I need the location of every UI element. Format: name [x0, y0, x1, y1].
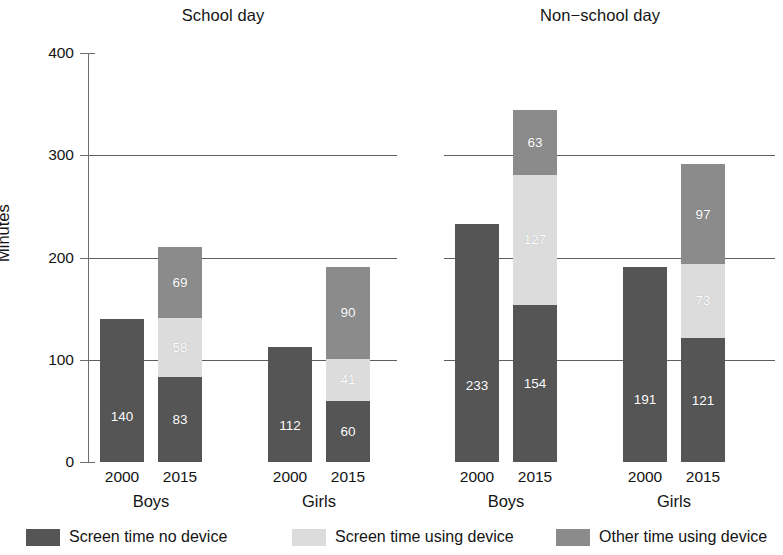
stacked-bar: 835869 — [158, 247, 202, 462]
bar-segment-value-label: 69 — [172, 275, 187, 290]
bar-segment: 191 — [623, 267, 667, 462]
x-tick-label: 2015 — [518, 468, 552, 486]
x-tick-label: 2015 — [163, 468, 197, 486]
bar-segment-value-label: 121 — [692, 393, 715, 408]
bar-segment-value-label: 154 — [524, 376, 547, 391]
y-tick-mark — [80, 360, 89, 361]
y-axis-bottom-cap — [88, 462, 95, 463]
bar-segment: 112 — [268, 347, 312, 462]
stacked-bar: 604190 — [326, 267, 370, 462]
bar-segment: 60 — [326, 401, 370, 462]
bar-segment: 121 — [681, 338, 725, 462]
gridline — [89, 258, 397, 259]
stacked-bar: 1217397 — [681, 164, 725, 462]
stacked-bar: 140 — [100, 319, 144, 462]
legend-item-other-time-using-device: Other time using device — [556, 528, 767, 546]
x-axis-group-label: Girls — [302, 492, 336, 511]
bar-segment: 58 — [158, 318, 202, 377]
x-tick-label: 2015 — [686, 468, 720, 486]
x-tick-label: 2000 — [460, 468, 494, 486]
bar-segment-value-label: 58 — [172, 340, 187, 355]
y-tick-mark — [80, 53, 89, 54]
x-tick-label: 2015 — [331, 468, 365, 486]
y-tick-mark — [80, 155, 89, 156]
bar-segment: 90 — [326, 267, 370, 359]
gridline — [444, 155, 775, 156]
bar-segment-value-label: 127 — [524, 232, 547, 247]
x-tick-label: 2000 — [105, 468, 139, 486]
bar-segment-value-label: 83 — [172, 412, 187, 427]
legend-swatch-icon-light — [292, 529, 326, 546]
bar-segment-value-label: 60 — [340, 424, 355, 439]
stacked-bar: 191 — [623, 267, 667, 462]
legend-item-screen-time-no-device: Screen time no device — [26, 528, 227, 546]
bar-segment: 69 — [158, 247, 202, 318]
bar-segment-value-label: 73 — [695, 293, 710, 308]
bar-segment-value-label: 90 — [340, 305, 355, 320]
bar-segment-value-label: 233 — [466, 378, 489, 393]
x-axis-group-label: Boys — [133, 492, 170, 511]
bar-segment-value-label: 191 — [634, 392, 657, 407]
stacked-bar: 112 — [268, 347, 312, 462]
y-axis-top-cap — [88, 53, 95, 54]
y-tick-label: 100 — [40, 351, 74, 369]
bar-segment: 140 — [100, 319, 144, 462]
stacked-bar-chart-figure: School day Non−school day Minutes 010020… — [0, 0, 783, 555]
legend-item-screen-time-using-device: Screen time using device — [292, 528, 514, 546]
legend-label: Other time using device — [599, 528, 767, 546]
bar-segment-value-label: 140 — [111, 409, 134, 424]
y-tick-label: 200 — [40, 249, 74, 267]
x-tick-label: 2000 — [273, 468, 307, 486]
y-axis-label: Minutes — [0, 204, 13, 262]
x-axis-group-label: Boys — [488, 492, 525, 511]
bar-segment: 97 — [681, 164, 725, 263]
stacked-bar: 15412763 — [513, 110, 557, 462]
chart-legend: Screen time no device Screen time using … — [0, 528, 783, 555]
x-tick-label: 2000 — [628, 468, 662, 486]
bar-segment: 63 — [513, 110, 557, 174]
stacked-bar: 233 — [455, 224, 499, 462]
bar-segment: 73 — [681, 264, 725, 339]
y-tick-label: 0 — [40, 453, 74, 471]
gridline — [89, 155, 397, 156]
bar-segment-value-label: 41 — [340, 372, 355, 387]
x-axis-group-label: Girls — [657, 492, 691, 511]
y-tick-label: 400 — [40, 44, 74, 62]
legend-swatch-icon-mid — [556, 529, 590, 546]
bar-segment: 127 — [513, 175, 557, 305]
legend-label: Screen time no device — [69, 528, 227, 546]
bar-segment-value-label: 112 — [279, 418, 301, 433]
bar-segment-value-label: 97 — [695, 207, 710, 222]
bar-segment: 233 — [455, 224, 499, 462]
legend-swatch-icon-dark — [26, 529, 60, 546]
bar-segment: 41 — [326, 359, 370, 401]
y-tick-label: 300 — [40, 146, 74, 164]
bar-segment: 154 — [513, 305, 557, 462]
legend-label: Screen time using device — [335, 528, 514, 546]
plot-area: Minutes 0100200300400 140835869112604190… — [0, 0, 783, 555]
bar-segment-value-label: 63 — [527, 135, 542, 150]
y-tick-mark — [80, 462, 89, 463]
bar-segment: 83 — [158, 377, 202, 462]
y-tick-mark — [80, 258, 89, 259]
